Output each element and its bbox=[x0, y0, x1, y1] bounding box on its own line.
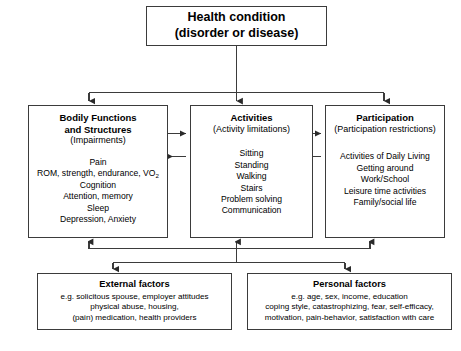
health-condition-title: Health condition (disorder or disease) bbox=[175, 10, 299, 41]
activities-box: Activities (Activity limitations) Sittin… bbox=[190, 105, 313, 238]
external-factors-box: External factors e.g. solicitous spouse,… bbox=[37, 273, 232, 330]
activities-subtitle: (Activity limitations) bbox=[191, 124, 312, 136]
bodily-functions-box: Bodily Functions and Structures (Impairm… bbox=[28, 105, 168, 238]
participation-items: Activities of Daily Living Getting aroun… bbox=[326, 151, 444, 208]
vo2-subscript: 2 bbox=[156, 172, 159, 179]
personal-factors-items: e.g. age, sex, income, education coping … bbox=[248, 292, 451, 324]
bodily-functions-items: Pain ROM, strength, endurance, VO2 Cogni… bbox=[29, 157, 167, 226]
participation-title: Participation bbox=[326, 112, 444, 124]
health-condition-box: Health condition (disorder or disease) bbox=[146, 6, 327, 46]
participation-box: Participation (Participation restriction… bbox=[325, 105, 445, 238]
bodily-functions-subtitle: (Impairments) bbox=[29, 135, 167, 147]
bodily-functions-items-part2: Cognition Attention, memory Sleep Depres… bbox=[60, 180, 136, 224]
external-factors-items: e.g. solicitous spouse, employer attitud… bbox=[38, 292, 231, 324]
icf-framework-diagram: Health condition (disorder or disease) B… bbox=[0, 0, 461, 351]
personal-factors-title: Personal factors bbox=[248, 279, 451, 291]
activities-items: Sitting Standing Walking Stairs Problem … bbox=[191, 148, 312, 217]
activities-title: Activities bbox=[191, 112, 312, 124]
participation-subtitle: (Participation restrictions) bbox=[326, 124, 444, 136]
bodily-functions-items-part1: Pain ROM, strength, endurance, VO bbox=[37, 157, 155, 178]
bodily-functions-title: Bodily Functions and Structures bbox=[29, 112, 167, 135]
personal-factors-box: Personal factors e.g. age, sex, income, … bbox=[247, 273, 452, 330]
external-factors-title: External factors bbox=[38, 279, 231, 291]
